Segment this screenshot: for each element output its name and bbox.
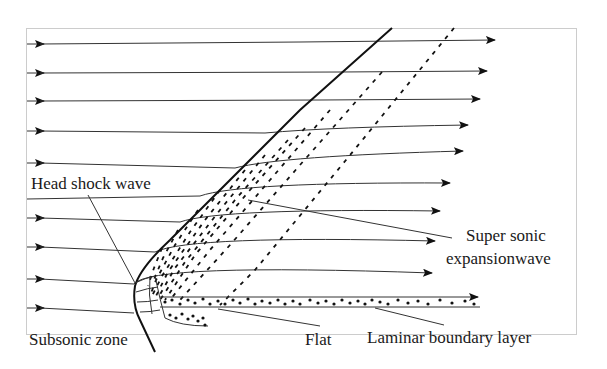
flat-plate xyxy=(160,297,480,307)
expansion-label-line1: Super sonic xyxy=(466,226,546,245)
expansion-label-line2: expansionwave xyxy=(446,249,551,268)
boundary-layer-label: Laminar boundary layer xyxy=(367,328,532,347)
subsonic-zone-label: Subsonic zone xyxy=(29,330,128,349)
leader-lines xyxy=(88,195,452,326)
head-shock-wave xyxy=(134,28,392,352)
flow-diagram: Head shock wave Super sonic expansionwav… xyxy=(0,0,607,369)
boundary-layer-dots xyxy=(163,297,475,326)
head-shock-label: Head shock wave xyxy=(31,174,151,193)
flat-label: Flat xyxy=(305,330,332,349)
